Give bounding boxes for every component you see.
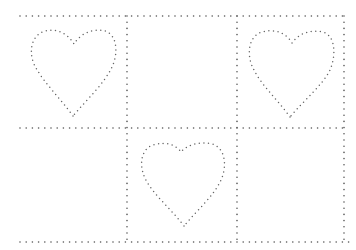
heart-outline-icon	[142, 143, 225, 226]
cell-top-right	[249, 31, 334, 117]
cell-bottom-middle	[142, 143, 225, 226]
heart-outline-icon	[31, 30, 115, 116]
cell-top-left	[31, 30, 115, 116]
worksheet-drawing	[0, 0, 356, 250]
heart-outline-icon	[249, 31, 334, 117]
tracing-worksheet	[0, 0, 356, 250]
